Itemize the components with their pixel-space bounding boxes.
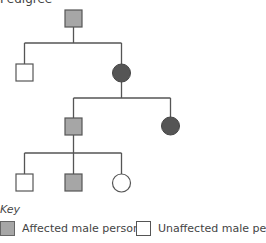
gen3-affected-female (162, 117, 180, 135)
key-heading: Key (0, 203, 20, 216)
affected-male-swatch (0, 221, 15, 236)
legend-unaffected-male: Unaffected male person (136, 221, 266, 236)
connector-lines (25, 27, 171, 174)
unaffected-male-swatch (136, 221, 151, 236)
gen3-affected-male (65, 118, 82, 135)
legend-affected-male: Affected male person (0, 221, 140, 236)
legend-label: Unaffected male person (158, 222, 266, 235)
pedigree-chart (0, 0, 266, 200)
gen2-unaffected-male (16, 64, 33, 81)
gen4-unaffected-female (113, 174, 131, 192)
gen4-affected-male (65, 174, 82, 191)
gen4-unaffected-male (16, 174, 33, 191)
gen1-affected-male (65, 10, 82, 27)
legend-label: Affected male person (22, 222, 140, 235)
gen2-affected-female (113, 64, 131, 82)
